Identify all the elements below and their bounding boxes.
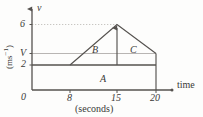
chart-canvas — [0, 0, 203, 117]
region-label-c: C — [130, 45, 137, 55]
velocity-trace-line — [70, 25, 156, 66]
y-unit-suffix: ) — [4, 45, 14, 48]
x-tick-label-15: 15 — [111, 93, 121, 103]
region-label-b: B — [92, 45, 98, 55]
velocity-time-graph-figure: v time (ms−1) 6 V 2 0 8 15 20 (seconds) … — [0, 0, 203, 117]
y-tick-label-0: 0 — [21, 92, 26, 102]
time-axis-label: time — [177, 80, 195, 90]
y-tick-label-6: 6 — [20, 19, 25, 29]
x-tick-label-20: 20 — [150, 93, 160, 103]
y-tick-label-2: 2 — [21, 59, 26, 69]
x-axis-unit-label: (seconds) — [75, 104, 113, 114]
v-axis-label: v — [37, 3, 41, 13]
y-axis-unit-label: (ms−1) — [2, 36, 14, 78]
y-unit-prefix: (ms — [4, 55, 14, 69]
y-unit-exponent: −1 — [2, 48, 10, 55]
region-label-a: A — [100, 74, 106, 84]
y-tick-label-V: V — [20, 48, 26, 58]
x-tick-label-8: 8 — [67, 93, 72, 103]
